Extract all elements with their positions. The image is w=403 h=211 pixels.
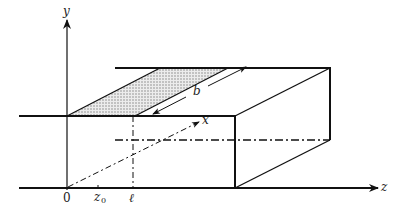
origin-label: 0 — [63, 191, 71, 205]
x-axis-label: x — [202, 113, 209, 127]
ell-label: ℓ — [129, 191, 134, 205]
bottom-right-diagonal — [235, 140, 330, 188]
y-axis-label: y — [62, 4, 70, 18]
top-right-diagonal — [235, 68, 330, 116]
waveguide-diagram: b y z x 0 z 0 ℓ — [0, 0, 403, 211]
z0-label: z — [93, 190, 101, 204]
z0-subscript: 0 — [101, 196, 106, 205]
b-label: b — [193, 84, 201, 98]
z-axis-label: z — [380, 180, 388, 194]
shaded-slot — [67, 68, 228, 116]
